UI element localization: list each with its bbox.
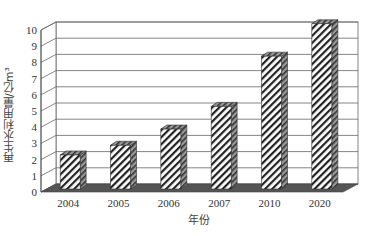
y-axis-ticks: 012345678910 bbox=[26, 24, 38, 198]
x-axis-title: 年份 bbox=[179, 211, 219, 227]
bar-chart: 012345678910 200420052006200720102020 再生… bbox=[0, 0, 378, 236]
x-tick-label: 2020 bbox=[309, 197, 332, 209]
bar-2010 bbox=[262, 52, 288, 189]
x-axis-ticks: 200420052006200720102020 bbox=[57, 197, 331, 209]
bar-2007 bbox=[211, 102, 237, 189]
x-tick-label: 2004 bbox=[57, 197, 80, 209]
y-axis-title: 再生水利用量/亿m³ bbox=[2, 60, 18, 170]
x-tick-label: 2007 bbox=[208, 197, 231, 209]
bar-2006 bbox=[161, 125, 187, 189]
y-tick-label: 0 bbox=[32, 186, 38, 198]
y-tick-label: 5 bbox=[32, 105, 38, 117]
gridlines bbox=[41, 22, 358, 192]
bar-2004 bbox=[60, 151, 86, 189]
y-tick-label: 9 bbox=[32, 40, 38, 52]
x-tick-label: 2010 bbox=[259, 197, 282, 209]
x-tick-label: 2006 bbox=[158, 197, 181, 209]
chart-floor bbox=[41, 184, 358, 192]
y-tick-label: 8 bbox=[32, 56, 38, 68]
bar-2020 bbox=[312, 20, 338, 189]
y-tick-label: 6 bbox=[32, 89, 38, 101]
chart-canvas: 012345678910 200420052006200720102020 bbox=[0, 0, 378, 236]
y-tick-label: 10 bbox=[26, 24, 38, 36]
y-tick-label: 1 bbox=[32, 170, 38, 182]
y-tick-label: 3 bbox=[32, 137, 38, 149]
y-tick-label: 2 bbox=[32, 154, 38, 166]
bar-2005 bbox=[111, 141, 137, 189]
x-tick-label: 2005 bbox=[108, 197, 131, 209]
y-tick-label: 4 bbox=[32, 121, 38, 133]
y-tick-label: 7 bbox=[32, 73, 38, 85]
